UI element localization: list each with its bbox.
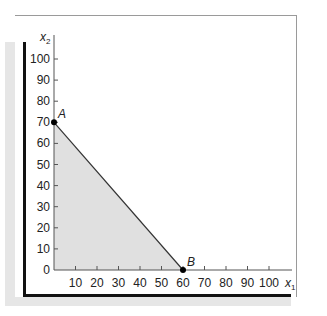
point-label-b: B xyxy=(187,255,195,269)
y-tick-label: 20 xyxy=(37,221,51,235)
x-tick-label: 100 xyxy=(259,276,279,290)
feasible-region xyxy=(54,122,183,270)
y-tick-label: 100 xyxy=(30,52,50,66)
y-tick-label: 50 xyxy=(37,158,51,172)
x-tick-label: 30 xyxy=(112,276,126,290)
chart-svg: 0102030405060708090100102030405060708090… xyxy=(0,0,327,316)
y-tick-label: 10 xyxy=(37,242,51,256)
y-tick-label: 40 xyxy=(37,179,51,193)
x-tick-label: 10 xyxy=(69,276,83,290)
x-tick-label: 40 xyxy=(133,276,147,290)
corner-point-a xyxy=(51,119,57,125)
x-tick-label: 50 xyxy=(155,276,169,290)
x-tick-label: 80 xyxy=(219,276,233,290)
y-tick-label: 0 xyxy=(43,263,50,277)
y-tick-label: 90 xyxy=(37,73,51,87)
x-tick-label: 70 xyxy=(198,276,212,290)
corner-point-b xyxy=(180,267,186,273)
x-tick-label: 60 xyxy=(176,276,190,290)
y-axis-title: x2 xyxy=(39,30,51,46)
y-tick-label: 80 xyxy=(37,94,51,108)
x-tick-label: 20 xyxy=(90,276,104,290)
y-tick-label: 60 xyxy=(37,136,51,150)
x-axis-title: x1 xyxy=(284,276,296,292)
y-tick-label: 70 xyxy=(37,115,51,129)
point-label-a: A xyxy=(57,107,66,121)
x-tick-label: 90 xyxy=(241,276,255,290)
y-tick-label: 30 xyxy=(37,200,51,214)
